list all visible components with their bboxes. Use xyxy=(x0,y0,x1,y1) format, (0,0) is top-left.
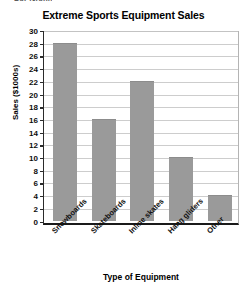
y-axis-tick-mark xyxy=(40,183,44,184)
y-axis-tick-label: 6 xyxy=(34,179,38,188)
y-axis-tick-label: 20 xyxy=(29,90,38,99)
y-axis-tick-label: 12 xyxy=(29,141,38,150)
plot-area: 302826242220181614121086420 xyxy=(43,31,239,225)
bars-group xyxy=(46,31,237,223)
bar-slot xyxy=(162,30,201,221)
y-axis-tick-label: 16 xyxy=(29,115,38,124)
chart-title: Extreme Sports Equipment Sales xyxy=(0,9,247,21)
y-axis-tick-mark xyxy=(40,69,44,70)
bar-slot xyxy=(200,30,239,221)
y-axis-tick-label: 8 xyxy=(34,166,38,175)
y-axis-tick-mark xyxy=(40,158,44,159)
bar-slot xyxy=(123,30,162,221)
y-axis-tick-label: 18 xyxy=(29,103,38,112)
y-axis-tick-mark xyxy=(40,44,44,45)
y-axis-tick-mark xyxy=(40,133,44,134)
bar[interactable] xyxy=(130,81,154,221)
y-axis-tick-mark xyxy=(40,56,44,57)
y-axis-tick-mark xyxy=(40,82,44,83)
y-axis-title: Sales ($1000s) xyxy=(11,38,20,148)
y-axis-tick-mark xyxy=(40,145,44,146)
y-axis-tick-label: 28 xyxy=(29,39,38,48)
bar[interactable] xyxy=(53,43,77,221)
y-axis-tick-label: 2 xyxy=(34,204,38,213)
y-axis-tick-mark xyxy=(40,196,44,197)
y-axis-tick-label: 26 xyxy=(29,52,38,61)
x-axis-title: Type of Equipment xyxy=(43,272,239,282)
y-axis-tick-label: 14 xyxy=(29,128,38,137)
y-axis-tick-mark xyxy=(40,222,44,223)
y-axis-tick-mark xyxy=(40,120,44,121)
y-axis-tick-label: 0 xyxy=(34,217,38,226)
y-axis-tick-mark xyxy=(40,171,44,172)
bar-slot xyxy=(46,30,85,221)
clipped-header-text: Bar Graph xyxy=(14,0,52,1)
y-axis-tick-label: 4 xyxy=(34,192,38,201)
y-axis-tick-label: 10 xyxy=(29,154,38,163)
y-axis-tick-label: 24 xyxy=(29,65,38,74)
y-axis-tick-mark xyxy=(40,95,44,96)
y-axis-tick-mark xyxy=(40,107,44,108)
y-axis-tick-label: 22 xyxy=(29,77,38,86)
bar-chart-figure: Bar Graph Extreme Sports Equipment Sales… xyxy=(0,0,247,292)
bar-slot xyxy=(84,30,123,221)
y-axis-tick-mark xyxy=(40,209,44,210)
y-axis-tick-mark xyxy=(40,31,44,32)
y-axis-tick-label: 30 xyxy=(29,27,38,36)
